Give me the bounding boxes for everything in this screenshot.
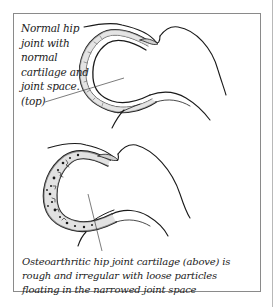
osteoarthritic-hip-joint-drawing <box>44 144 190 246</box>
osteoarthritic-joint-caption: Osteoarthritic hip joint cartilage (abov… <box>22 255 252 297</box>
caption-line: (top) <box>21 94 96 109</box>
caption-line: joint with <box>21 36 96 51</box>
caption-line: cartilage and <box>21 65 96 80</box>
caption-line: Osteoarthritic hip joint cartilage (abov… <box>22 255 252 269</box>
caption-line: rough and irregular with loose particles <box>22 269 252 283</box>
caption-line: joint space. <box>21 79 96 94</box>
caption-line: normal <box>21 50 96 65</box>
normal-joint-caption: Normal hip joint with normal cartilage a… <box>21 21 96 108</box>
caption-line: Normal hip <box>21 21 96 36</box>
caption-line: floating in the narrowed joint space <box>22 283 252 297</box>
normal-hip-joint-drawing <box>80 24 226 128</box>
